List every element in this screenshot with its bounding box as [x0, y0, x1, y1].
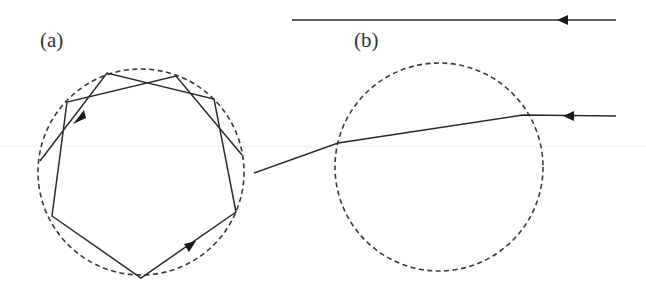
panel-b-refracted-ray — [254, 115, 616, 173]
panel-b-label: (b) — [354, 28, 379, 53]
panel-b — [254, 15, 616, 271]
panel-a-label: (a) — [40, 28, 63, 53]
arrow-head-icon — [73, 110, 86, 124]
arrow-head-icon — [557, 15, 568, 25]
panel-b-dashed-circle — [335, 63, 543, 271]
arrow-head-icon — [184, 241, 196, 252]
panel-a — [38, 69, 244, 278]
diagram-canvas — [0, 0, 646, 297]
arrow-head-icon — [563, 111, 574, 121]
panel-a-dashed-circle — [38, 69, 244, 275]
